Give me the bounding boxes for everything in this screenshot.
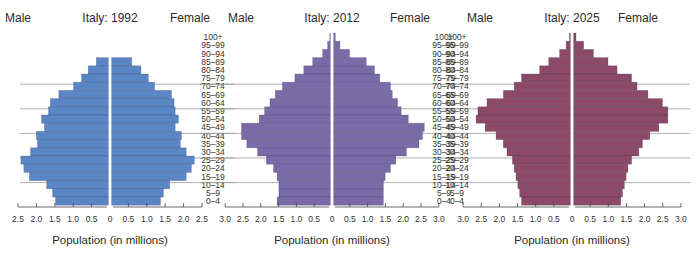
bar-male-60–64 xyxy=(487,99,570,107)
x-tick-label: 2.5 xyxy=(657,214,669,224)
panel-title: Italy: 2012 xyxy=(304,11,360,25)
bar-female-15–19 xyxy=(112,172,187,180)
bar-female-5–9 xyxy=(112,189,164,197)
bar-female-0–4 xyxy=(112,197,161,205)
x-tick-label: 0 xyxy=(108,214,113,224)
bar-male-95–99 xyxy=(566,41,570,49)
female-label: Female xyxy=(170,11,210,25)
bar-male-35–39 xyxy=(503,140,570,148)
bar-female-40–44 xyxy=(112,131,182,139)
bar-female-35–39 xyxy=(334,140,419,148)
bar-female-15–19 xyxy=(334,172,386,180)
bar-male-10–14 xyxy=(518,181,571,189)
x-tick-label: 1.0 xyxy=(141,214,153,224)
bar-female-80–84 xyxy=(334,66,375,74)
bar-female-75–79 xyxy=(334,74,380,82)
bar-female-50–54 xyxy=(574,115,668,123)
bar-male-80–84 xyxy=(88,66,108,74)
bar-female-55–59 xyxy=(112,107,176,115)
bar-female-10–14 xyxy=(112,181,170,189)
bar-female-65–69 xyxy=(574,90,648,98)
x-axis-title: Population (in millions) xyxy=(52,234,168,246)
panel-title: Italy: 2025 xyxy=(544,11,600,25)
bar-female-25–29 xyxy=(574,156,632,164)
bar-female-25–29 xyxy=(334,156,396,164)
bar-female-55–59 xyxy=(334,107,402,115)
bar-female-30–34 xyxy=(574,148,639,156)
bar-male-15–19 xyxy=(277,172,330,180)
bar-female-55–59 xyxy=(574,107,668,115)
bar-male-15–19 xyxy=(516,172,570,180)
bar-male-0–4 xyxy=(521,197,570,205)
x-tick-label: 3.0 xyxy=(219,214,231,224)
bar-male-25–29 xyxy=(21,156,109,164)
bar-male-65–69 xyxy=(503,90,570,98)
bar-female-40–44 xyxy=(334,131,423,139)
bar-male-100+ xyxy=(330,33,331,41)
bar-female-70–74 xyxy=(112,82,155,90)
x-tick-label: 0.5 xyxy=(548,214,560,224)
bar-male-0–4 xyxy=(56,197,109,205)
x-tick-label: 2.5 xyxy=(196,214,208,224)
bar-female-20–24 xyxy=(112,164,192,172)
bar-male-40–44 xyxy=(496,131,570,139)
x-tick-label: 2.0 xyxy=(178,214,190,224)
bar-male-0–4 xyxy=(277,197,330,205)
bar-female-45–49 xyxy=(574,123,659,131)
x-tick-label: 2.0 xyxy=(639,214,651,224)
male-label: Male xyxy=(228,11,254,25)
bar-male-85–89 xyxy=(96,58,108,66)
x-tick-label: 1.0 xyxy=(602,214,614,224)
bar-female-70–74 xyxy=(334,82,391,90)
x-tick-label: 3.0 xyxy=(457,214,469,224)
bar-male-45–49 xyxy=(242,123,331,131)
x-tick-label: 2.0 xyxy=(30,214,42,224)
bar-male-25–29 xyxy=(266,156,330,164)
x-tick-label: 1.0 xyxy=(530,214,542,224)
x-tick-label: 1.5 xyxy=(512,214,524,224)
x-axis-title: Population (in millions) xyxy=(274,234,390,246)
pyramid-panel-0: 100+95–9990–9485–8980–8475–7970–7465–696… xyxy=(5,11,235,246)
bar-female-100+ xyxy=(334,33,336,41)
x-tick-label: 0 xyxy=(330,214,335,224)
x-tick-label: 0 xyxy=(570,214,575,224)
bar-male-25–29 xyxy=(512,156,570,164)
bar-male-45–49 xyxy=(485,123,570,131)
bar-male-5–9 xyxy=(520,189,571,197)
bar-female-60–64 xyxy=(334,99,398,107)
bar-female-70–74 xyxy=(574,82,638,90)
x-tick-label: 0.5 xyxy=(308,214,320,224)
x-tick-label: 1.5 xyxy=(621,214,633,224)
pyramid-panel-2: 100+95–9990–9485–8980–8475–7970–7465–696… xyxy=(445,11,690,246)
bar-female-75–79 xyxy=(574,74,632,82)
bar-female-80–84 xyxy=(574,66,618,74)
bar-female-65–69 xyxy=(112,90,172,98)
bar-male-85–89 xyxy=(549,58,571,66)
bar-male-80–84 xyxy=(304,66,331,74)
bar-male-5–9 xyxy=(279,189,331,197)
bar-male-15–19 xyxy=(29,172,108,180)
bar-male-35–39 xyxy=(247,140,331,148)
bar-male-65–69 xyxy=(275,90,330,98)
x-tick-label: 0.5 xyxy=(122,214,134,224)
x-tick-label: 1.0 xyxy=(290,214,302,224)
bar-female-5–9 xyxy=(574,189,623,197)
bar-female-35–39 xyxy=(112,140,181,148)
panel-title: Italy: 1992 xyxy=(82,11,138,25)
bar-female-45–49 xyxy=(334,123,425,131)
bar-female-40–44 xyxy=(574,131,650,139)
bar-female-85–89 xyxy=(574,58,608,66)
bar-male-20–24 xyxy=(24,164,109,172)
bar-male-75–79 xyxy=(295,74,331,82)
x-tick-label: 0.5 xyxy=(86,214,98,224)
bar-female-90–94 xyxy=(334,49,350,57)
bar-male-30–34 xyxy=(30,148,108,156)
x-tick-label: 2.0 xyxy=(255,214,267,224)
x-tick-label: 1.0 xyxy=(67,214,79,224)
bar-female-95–99 xyxy=(574,41,584,49)
bar-male-35–39 xyxy=(37,140,108,148)
bar-male-95–99 xyxy=(328,41,331,49)
bar-female-60–64 xyxy=(112,99,175,107)
bar-female-25–29 xyxy=(112,156,195,164)
bar-female-50–54 xyxy=(112,115,179,123)
